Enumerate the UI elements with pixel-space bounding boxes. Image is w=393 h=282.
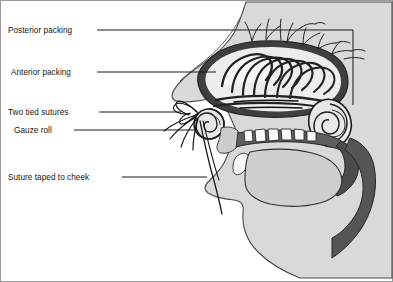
label-suture-taped-to-cheek: Suture taped to cheek	[8, 173, 90, 182]
label-anterior-packing: Anterior packing	[11, 68, 71, 77]
illustration-canvas: Posterior packing Anterior packing Two t…	[0, 0, 393, 282]
label-posterior-packing: Posterior packing	[8, 26, 73, 35]
label-gauze-roll: Gauze roll	[14, 126, 52, 135]
gauze-roll-nostril	[194, 109, 224, 139]
nasal-packing-figure: Posterior packing Anterior packing Two t…	[0, 0, 393, 282]
label-two-tied-sutures: Two tied sutures	[8, 108, 68, 117]
